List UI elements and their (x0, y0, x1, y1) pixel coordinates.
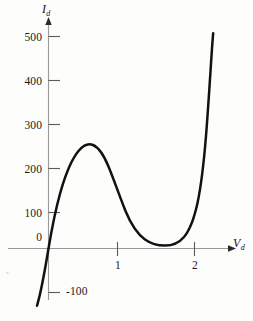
y-tick-label-500: 500 (10, 31, 42, 43)
y-tick-label-minus-100: -100 (66, 285, 87, 297)
plot-canvas (0, 0, 253, 321)
tunnel-diode-iv-figure: 500 400 300 200 100 0 -100 1 2 Id Vd (0, 0, 253, 321)
scan-artifact-speck (6, 272, 9, 274)
x-axis-title-symbol: V (233, 236, 240, 250)
y-axis-ticks (49, 37, 61, 293)
x-tick-label-1: 1 (108, 259, 128, 271)
y-tick-label-300: 300 (10, 119, 42, 131)
y-axis-arrowhead (45, 17, 51, 25)
y-axis-title-subscript: d (46, 9, 50, 18)
y-axis-title: Id (42, 2, 50, 17)
y-tick-label-400: 400 (10, 75, 42, 87)
y-tick-label-0: 0 (10, 231, 42, 243)
x-tick-label-2: 2 (185, 259, 205, 271)
y-tick-label-200: 200 (10, 163, 42, 175)
x-axis-title: Vd (233, 236, 244, 251)
x-axis-title-subscript: d (241, 243, 245, 252)
y-tick-label-100: 100 (10, 207, 42, 219)
